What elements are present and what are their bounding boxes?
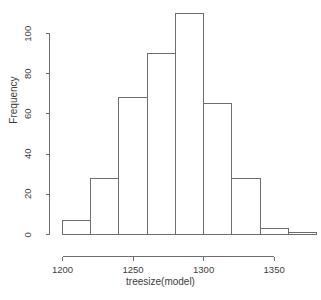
histogram-bar xyxy=(204,104,232,235)
y-axis-title: Frequency xyxy=(8,60,19,140)
plot-area: 020406080100 1200125013001350 Frequency … xyxy=(0,0,321,300)
y-axis-group xyxy=(46,34,50,235)
y-tick-label: 0 xyxy=(23,220,33,248)
histogram-bar xyxy=(147,54,175,235)
histogram-figure: 020406080100 1200125013001350 Frequency … xyxy=(0,0,321,300)
histogram-bar xyxy=(119,98,147,235)
x-axis-group xyxy=(63,257,275,261)
y-tick-label: 40 xyxy=(23,140,33,168)
histogram-bar xyxy=(232,178,260,234)
bars-group xyxy=(63,13,317,234)
y-tick-label: 20 xyxy=(23,180,33,208)
x-axis-title: treesize(model) xyxy=(0,276,321,287)
histogram-bar xyxy=(91,178,119,234)
x-tick-label: 1350 xyxy=(254,265,294,275)
y-tick-label: 80 xyxy=(23,59,33,87)
histogram-bar xyxy=(260,228,288,234)
y-tick-label: 60 xyxy=(23,100,33,128)
y-tick-label: 100 xyxy=(23,19,33,47)
chart-svg xyxy=(0,0,321,300)
x-tick-label: 1250 xyxy=(113,265,153,275)
histogram-bar xyxy=(63,220,91,234)
histogram-bar xyxy=(175,13,203,234)
x-tick-label: 1300 xyxy=(184,265,224,275)
x-tick-label: 1200 xyxy=(43,265,83,275)
